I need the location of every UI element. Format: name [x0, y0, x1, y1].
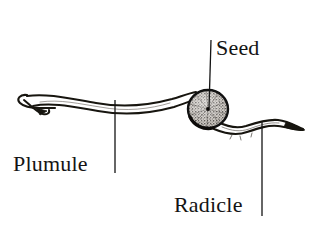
- label-radicle: Radicle: [174, 194, 243, 216]
- illustration-canvas: [0, 0, 322, 232]
- label-plumule: Plumule: [13, 153, 88, 175]
- label-seed: Seed: [216, 37, 260, 59]
- seed-germination-figure: Seed Plumule Radicle: [0, 0, 322, 232]
- figure-background: [0, 0, 322, 232]
